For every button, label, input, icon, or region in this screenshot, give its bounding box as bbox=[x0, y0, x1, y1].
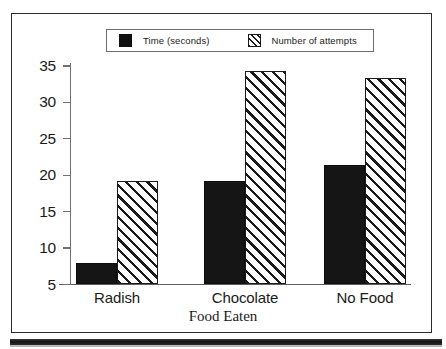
legend-label-attempts: Number of attempts bbox=[272, 35, 357, 46]
chart-legend: Time (seconds) Number of attempts bbox=[106, 29, 374, 52]
legend-entry-time: Time (seconds) bbox=[119, 30, 210, 51]
chart-frame bbox=[11, 13, 432, 333]
solid-black-square-icon bbox=[119, 34, 132, 47]
legend-entry-attempts: Number of attempts bbox=[248, 30, 357, 51]
legend-label-time: Time (seconds) bbox=[143, 35, 210, 46]
scanned-page: Time (seconds) Number of attempts 510152… bbox=[0, 0, 446, 349]
diagonal-hatch-square-icon bbox=[248, 34, 261, 47]
page-edge-bar-shadow bbox=[10, 345, 442, 347]
